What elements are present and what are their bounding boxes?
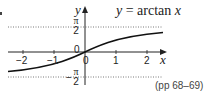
origin-label-left: 0: [74, 44, 80, 55]
bullet-mark: [0, 12, 2, 15]
pi-denominator: 2: [71, 26, 81, 36]
pi-denominator: 2: [71, 77, 81, 87]
tick-label-2: 2: [144, 55, 150, 66]
tick-label-minus-2: −2: [16, 55, 27, 66]
equation-label: y = arctan x: [116, 3, 181, 19]
equation-x: x: [175, 3, 181, 18]
tick-label-1: 1: [113, 55, 119, 66]
tick-label-0: 0: [83, 55, 89, 66]
pi-over-2-label: π 2: [71, 16, 81, 36]
equation-mid: = arctan: [122, 3, 175, 18]
x-axis-label: x: [160, 52, 166, 68]
tick-label-minus-1: −1: [47, 55, 58, 66]
page-reference: (pp 68–69): [155, 80, 203, 91]
y-axis-arrow-icon: [82, 6, 88, 13]
